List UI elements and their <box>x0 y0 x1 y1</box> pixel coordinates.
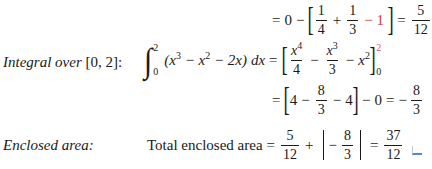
equals-sign: = <box>269 52 277 69</box>
x-squared: x2 <box>358 52 370 69</box>
enclosed-area-label: Enclosed area: <box>3 137 94 154</box>
plus-sign: + <box>305 137 313 154</box>
equals-sign: = <box>386 92 394 109</box>
right-bracket: ] <box>388 2 394 36</box>
minus-sign: − <box>362 92 370 109</box>
result-fraction: 37 12 <box>384 129 402 162</box>
differential: dx <box>251 52 265 69</box>
fraction-five-twelfths: 5 12 <box>281 129 299 162</box>
minus-sign: − <box>310 52 318 69</box>
integral-limits: 2 0 <box>153 43 158 77</box>
bracket-corner-icon[interactable] <box>412 146 422 155</box>
equals-sign: = <box>397 12 405 29</box>
zero: 0 <box>375 92 383 109</box>
fraction-x4-over-4: x4 4 <box>289 44 304 77</box>
negative-sign: − <box>329 137 337 154</box>
result-fraction: 8 3 <box>411 84 422 117</box>
total-area-equation: Total enclosed area = 5 12 + − 8 3 = 37 … <box>147 126 404 164</box>
absolute-value-left-bar <box>323 130 324 160</box>
fraction-x3-over-3: x3 3 <box>325 44 340 77</box>
fraction-eight-thirds: 8 3 <box>342 129 353 162</box>
absolute-value-right-bar <box>360 130 361 160</box>
plus-sign: + <box>333 12 341 29</box>
right-bracket: ] <box>352 82 358 116</box>
equals-sign: = <box>370 137 378 154</box>
minus-sign: − <box>296 12 304 29</box>
fraction-eight-thirds: 8 3 <box>316 84 327 117</box>
negative-sign: − <box>399 92 407 109</box>
integral-equation: ∫ 2 0 (x3 − x2 − 2x) dx = [ x4 4 − x3 3 … <box>144 40 381 80</box>
minus-sign: − <box>346 52 354 69</box>
integral-label: Integral over [0, 2]: <box>3 54 122 71</box>
evaluation-limits: 2 0 <box>376 43 381 77</box>
integral-sign-icon: ∫ <box>144 43 152 78</box>
equals-sign: = <box>272 92 280 109</box>
four: 4 <box>290 92 298 109</box>
fraction-one-third: 1 3 <box>347 4 358 37</box>
equals-sign: = <box>267 137 275 154</box>
left-bracket: [ <box>284 82 290 116</box>
equation-step-3: = [ 4 − 8 3 − 4 ] − 0 = − 8 3 <box>268 82 424 118</box>
right-bracket: ] <box>370 42 376 76</box>
integrand: (x3 − x2 − 2x) <box>164 52 247 69</box>
zero: 0 <box>284 12 292 29</box>
equation-step-1: = 0 − [ 1 4 + 1 3 − 1 ] = 5 12 <box>268 2 432 38</box>
minus-sign: − <box>333 92 341 109</box>
fraction-one-quarter: 1 4 <box>316 4 327 37</box>
equals-sign: = <box>272 12 280 29</box>
minus-sign: − <box>301 92 309 109</box>
total-area-text: Total enclosed area <box>147 137 263 154</box>
highlighted-minus-one: − 1 <box>364 12 384 29</box>
left-bracket: [ <box>308 2 314 36</box>
result-fraction: 5 12 <box>412 4 430 37</box>
left-bracket: [ <box>281 42 287 76</box>
